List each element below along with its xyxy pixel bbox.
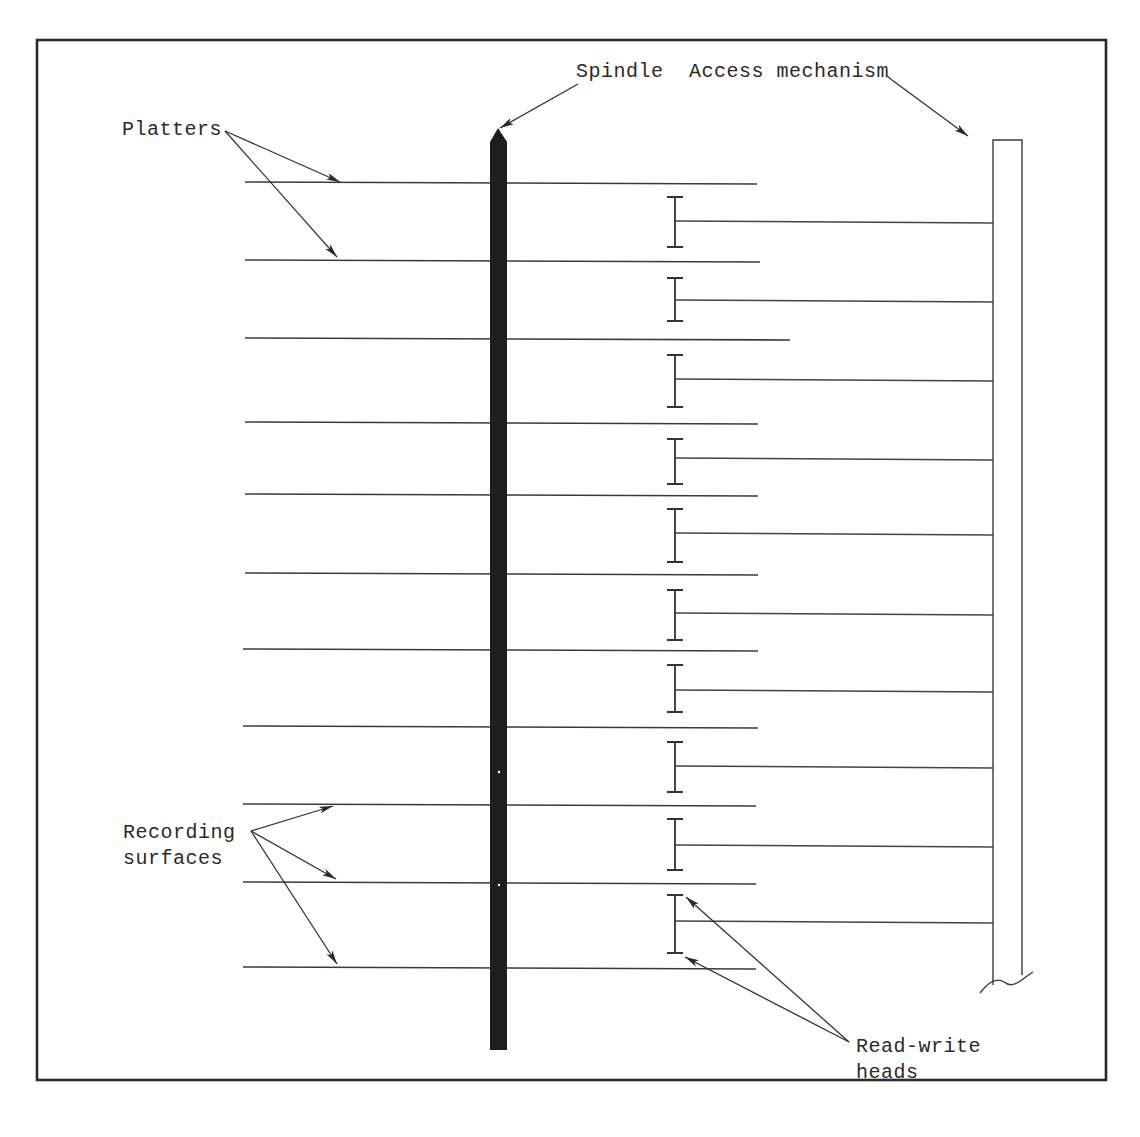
read-write-head-8 — [667, 742, 993, 792]
read-write-head-1 — [667, 197, 993, 247]
access-mechanism — [980, 140, 1033, 993]
recording-surfaces-label-line2: surfaces — [123, 847, 223, 870]
access-arm — [675, 533, 993, 535]
head-ibeam-icon — [667, 590, 683, 640]
head-ibeam-icon — [667, 355, 683, 407]
recording-surfaces-label-line1: Recording — [123, 821, 236, 844]
access-arm — [675, 921, 993, 923]
disk-pack-diagram: Spindle Access mechanism Platters Record… — [0, 0, 1140, 1137]
read-write-head-5 — [667, 509, 993, 562]
head-ibeam-icon — [667, 509, 683, 562]
head-ibeam-icon — [667, 197, 683, 247]
access-arm — [675, 458, 993, 460]
read-write-head-7 — [667, 665, 993, 712]
access-mechanism-label: Access mechanism — [689, 60, 889, 83]
platter-3 — [245, 338, 790, 340]
recording-surfaces-arrow-icon — [251, 831, 337, 964]
access-arm — [675, 766, 993, 768]
read-write-head-3 — [667, 355, 993, 407]
recording-surfaces-arrow-icon — [251, 831, 336, 879]
read-write-heads-label-line2: heads — [856, 1061, 919, 1084]
read-write-head-4 — [667, 439, 993, 484]
access-arm — [675, 613, 993, 615]
leader-arrows — [225, 76, 968, 1042]
head-ibeam-icon — [667, 665, 683, 712]
read-write-head-2 — [667, 278, 993, 321]
head-ibeam-icon — [667, 439, 683, 484]
read-write-head-6 — [667, 590, 993, 640]
access-arm — [675, 221, 993, 223]
break-line-icon — [980, 972, 1033, 993]
access-arm — [675, 379, 993, 381]
platters-label: Platters — [122, 118, 222, 141]
platters-arrow-icon — [225, 131, 340, 182]
figure-frame — [37, 40, 1106, 1080]
read-write-head-9 — [667, 819, 993, 870]
read-write-heads-label-line1: Read-write — [856, 1035, 981, 1058]
spindle-highlight — [498, 771, 500, 773]
spindle-label: Spindle — [576, 60, 664, 83]
access-arm — [675, 845, 993, 847]
recording-surfaces-arrow-icon — [251, 806, 333, 831]
access-mechanism-arrow-icon — [887, 76, 968, 136]
platters-arrow-icon — [225, 131, 337, 257]
head-ibeam-icon — [667, 895, 683, 953]
spindle-highlight — [498, 884, 500, 886]
spindle-arrow-icon — [500, 84, 578, 128]
head-ibeam-icon — [667, 742, 683, 792]
access-arm — [675, 300, 993, 302]
access-arm — [675, 690, 993, 692]
spindle-shaft — [490, 128, 507, 1050]
